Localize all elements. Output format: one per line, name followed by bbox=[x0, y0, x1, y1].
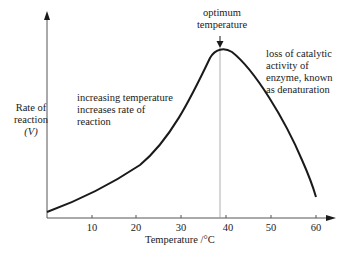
x-tick-label: 30 bbox=[176, 222, 187, 233]
x-tick-label: 60 bbox=[311, 222, 322, 233]
y-axis-label-line2: reaction bbox=[8, 114, 54, 126]
denaturation-annotation: loss of catalytic activity of enzyme, kn… bbox=[266, 48, 332, 96]
rising-line2: increases rate of bbox=[77, 104, 173, 116]
optimum-annotation: optimum temperature bbox=[194, 7, 250, 31]
rising-line3: reaction bbox=[77, 116, 173, 128]
x-tick-label: 20 bbox=[131, 222, 142, 233]
rising-line1: increasing temperature bbox=[77, 92, 173, 104]
y-axis-label-line1: Rate of bbox=[8, 102, 54, 114]
x-tick-label: 40 bbox=[223, 222, 234, 233]
y-axis-arrow-icon bbox=[44, 11, 50, 20]
optimum-line1: optimum bbox=[194, 7, 250, 19]
y-axis-label-line3: (V) bbox=[8, 126, 54, 138]
rising-annotation: increasing temperature increases rate of… bbox=[77, 92, 173, 128]
y-axis-label: Rate of reaction (V) bbox=[8, 102, 54, 138]
optimum-line2: temperature bbox=[194, 19, 250, 31]
x-axis-label: Temperature /°C bbox=[145, 234, 215, 246]
optimum-arrow-icon bbox=[217, 41, 224, 48]
denaturation-line3: enzyme, known bbox=[266, 72, 332, 84]
denaturation-line2: activity of bbox=[266, 60, 332, 72]
x-tick-label: 50 bbox=[266, 222, 277, 233]
x-tick-label: 10 bbox=[87, 222, 98, 233]
denaturation-line4: as denaturation bbox=[266, 84, 332, 96]
x-axis-arrow-icon bbox=[326, 215, 336, 221]
denaturation-line1: loss of catalytic bbox=[266, 48, 332, 60]
